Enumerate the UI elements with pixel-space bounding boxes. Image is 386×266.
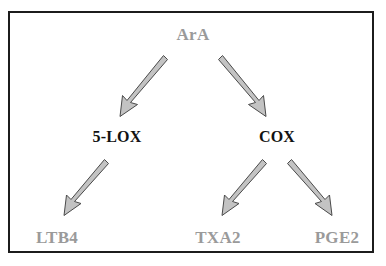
diagram-border — [8, 11, 374, 253]
node-label-txa2: TXA2 — [195, 229, 241, 246]
node-label-cox: COX — [259, 129, 295, 145]
node-label-ltb4: LTB4 — [36, 229, 78, 246]
node-label-ara: ArA — [177, 26, 210, 43]
node-label-pge2: PGE2 — [315, 229, 360, 246]
node-label-5-lox: 5-LOX — [93, 129, 142, 145]
pathway-diagram: ArA 5-LOX COX LTB4 TXA2 PGE2 — [0, 0, 386, 266]
